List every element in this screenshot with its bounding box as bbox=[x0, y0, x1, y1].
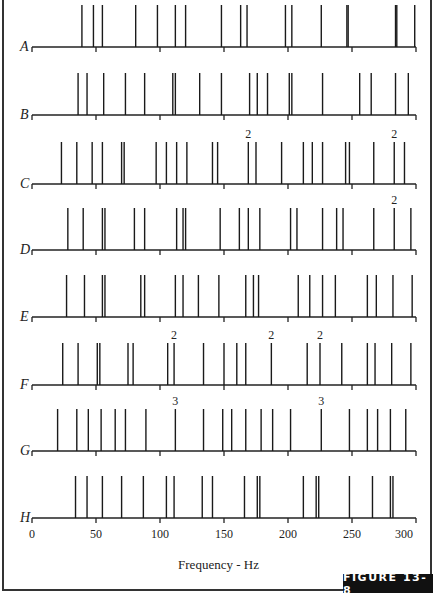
multiplicity-label: 3 bbox=[172, 394, 178, 408]
x-tick-label: 250 bbox=[343, 527, 361, 541]
row-label-d: D bbox=[19, 242, 30, 257]
x-tick-label: 50 bbox=[90, 527, 102, 541]
multiplicity-label: 2 bbox=[391, 127, 397, 141]
row-label-g: G bbox=[20, 443, 30, 458]
multiplicity-label: 3 bbox=[318, 394, 324, 408]
x-tick-label: 300 bbox=[395, 527, 413, 541]
multiplicity-label: 2 bbox=[391, 193, 397, 207]
row-label-b: B bbox=[20, 107, 29, 122]
multiplicity-label: 2 bbox=[171, 328, 177, 342]
multiplicity-label: 2 bbox=[317, 328, 323, 342]
x-tick-label: 150 bbox=[215, 527, 233, 541]
multiplicity-label: 2 bbox=[245, 127, 251, 141]
row-label-e: E bbox=[19, 309, 29, 324]
row-label-c: C bbox=[20, 176, 30, 191]
row-label-f: F bbox=[19, 377, 29, 392]
row-label-h: H bbox=[19, 510, 31, 525]
x-tick-label: 0 bbox=[29, 527, 35, 541]
figure-number-badge: FIGURE 13-8 bbox=[343, 574, 433, 593]
x-tick-label: 200 bbox=[279, 527, 297, 541]
row-label-a: A bbox=[19, 39, 29, 54]
multiplicity-label: 2 bbox=[268, 328, 274, 342]
spectral-line-chart: ABC22D2EF222G33H050100150200250300 bbox=[0, 0, 437, 560]
x-tick-label: 100 bbox=[151, 527, 169, 541]
